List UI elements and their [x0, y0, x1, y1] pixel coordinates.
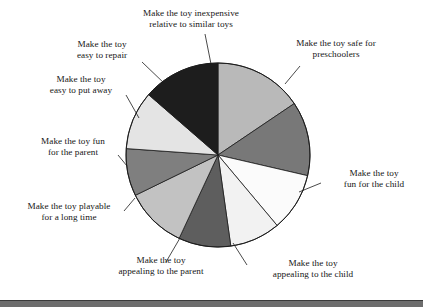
slice-label-easy-to-repair: Make the toy easy to repair — [56, 39, 148, 62]
slice-label-fun-for-the-parent: Make the toy fun for the parent — [19, 136, 127, 159]
leader-repair — [142, 62, 166, 85]
slice-label-appealing-to-the-parent: Make the toy appealing to the parent — [93, 255, 229, 278]
pie-chart-figure: Make the toy inexpensive relative to sim… — [0, 0, 423, 307]
slice-label-inexpensive: Make the toy inexpensive relative to sim… — [118, 8, 264, 31]
footer-divider — [0, 300, 423, 307]
slice-label-easy-to-put-away: Make the toy easy to put away — [29, 74, 133, 97]
slice-label-fun-for-the-child: Make the toy fun for the child — [328, 168, 420, 191]
leader-inexpensive — [205, 34, 211, 64]
slice-label-safe-for-preschoolers: Make the toy safe for preschoolers — [272, 38, 400, 61]
pie-slices-group — [126, 63, 310, 247]
slice-label-appealing-to-the-child: Make the toy appealing to the child — [241, 258, 385, 281]
leader-safe — [285, 66, 300, 84]
slice-label-playable-for-a-long-time: Make the toy playable for a long time — [9, 201, 129, 224]
leader-put-away — [126, 95, 139, 118]
